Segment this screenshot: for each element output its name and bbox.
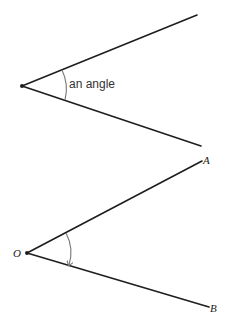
point-label-b: B: [210, 302, 217, 314]
ray-ob: [27, 253, 209, 307]
angle-diagram-unlabeled: an angle: [20, 15, 201, 146]
vertex-o-point: [25, 251, 29, 255]
point-label-a: A: [202, 154, 210, 166]
lower-ray: [22, 86, 201, 146]
upper-ray: [22, 15, 197, 86]
angle-diagram-aob: O A B: [13, 154, 217, 314]
angle-figures: an angle O A B: [0, 0, 230, 332]
ray-oa: [27, 161, 202, 253]
rotation-arc-arrow: [66, 233, 71, 265]
vertex-label-o: O: [13, 247, 21, 259]
angle-arc: [62, 70, 66, 100]
vertex-point: [20, 84, 24, 88]
angle-label: an angle: [69, 77, 115, 91]
